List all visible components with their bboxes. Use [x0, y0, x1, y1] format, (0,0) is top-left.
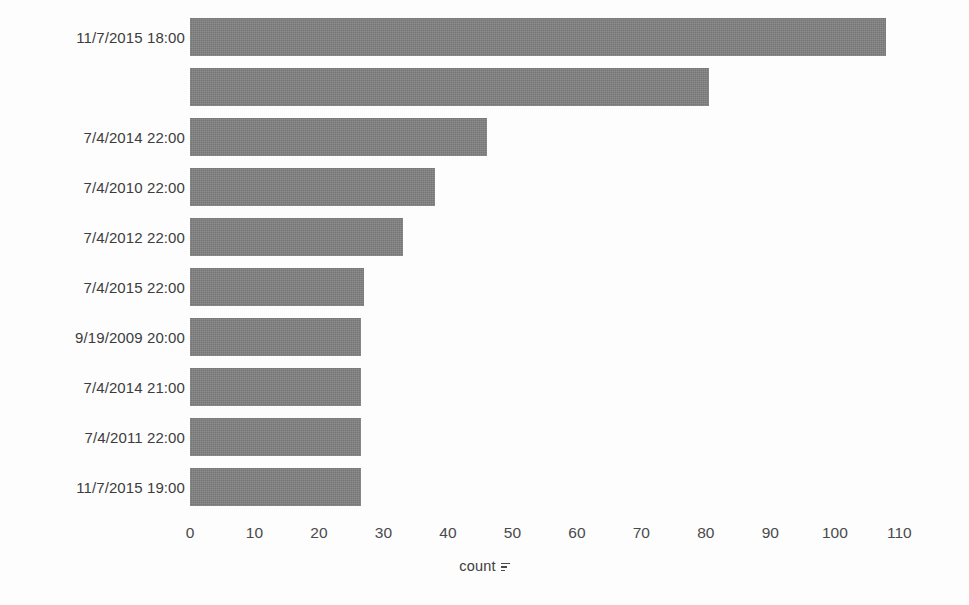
- bar[interactable]: [190, 468, 361, 506]
- bar[interactable]: [190, 68, 709, 106]
- y-axis-label-row: [0, 62, 185, 112]
- y-axis-label-row: 7/4/2011 22:00: [0, 412, 185, 462]
- bar-row: [190, 262, 909, 312]
- x-axis-title[interactable]: count: [0, 558, 969, 574]
- x-axis-tick-label: 70: [633, 524, 650, 542]
- y-axis-label-row: 7/4/2012 22:00: [0, 212, 185, 262]
- y-axis-label-row: 7/4/2014 22:00: [0, 112, 185, 162]
- y-axis-tick-label: 7/4/2011 22:00: [85, 429, 185, 446]
- y-axis-tick-label: 7/4/2014 21:00: [84, 379, 186, 396]
- bar[interactable]: [190, 168, 435, 206]
- x-axis-tick-label: 90: [762, 524, 779, 542]
- bar-chart: 11/7/2015 18:00 7/4/2014 22:00 7/4/2010 …: [0, 0, 969, 605]
- x-axis-tick-label: 0: [186, 524, 195, 542]
- bar[interactable]: [190, 368, 361, 406]
- y-axis-label-row: 7/4/2015 22:00: [0, 262, 185, 312]
- y-axis-tick-label: 7/4/2010 22:00: [84, 179, 186, 196]
- x-axis-tick-label: 50: [504, 524, 521, 542]
- y-axis-tick-label: 7/4/2014 22:00: [84, 129, 186, 146]
- bar[interactable]: [190, 268, 364, 306]
- sort-descending-icon[interactable]: [501, 563, 510, 572]
- bar-row: [190, 112, 909, 162]
- bar-row: [190, 462, 909, 512]
- x-axis-tick-label: 80: [697, 524, 714, 542]
- bar-row: [190, 162, 909, 212]
- x-axis-tick-label: 60: [568, 524, 585, 542]
- plot-area: [190, 12, 909, 520]
- x-axis-tick-label: 110: [887, 524, 912, 542]
- bar[interactable]: [190, 318, 361, 356]
- x-axis-tick-label: 100: [822, 524, 848, 542]
- x-axis: 0 10 20 30 40 50 60 70 80 90 100 110: [190, 524, 930, 550]
- bar[interactable]: [190, 18, 886, 56]
- y-axis-tick-label: 9/19/2009 20:00: [75, 329, 185, 346]
- x-axis-tick-label: 30: [375, 524, 392, 542]
- y-axis-label-row: 11/7/2015 19:00: [0, 462, 185, 512]
- y-axis-tick-label: 11/7/2015 18:00: [76, 29, 185, 46]
- bar-row: [190, 62, 909, 112]
- y-axis-label-row: 7/4/2014 21:00: [0, 362, 185, 412]
- y-axis-label-row: 7/4/2010 22:00: [0, 162, 185, 212]
- x-axis-tick-label: 40: [439, 524, 456, 542]
- bar-row: [190, 362, 909, 412]
- bar[interactable]: [190, 218, 403, 256]
- bar[interactable]: [190, 118, 487, 156]
- y-axis-label-row: 9/19/2009 20:00: [0, 312, 185, 362]
- bar-row: [190, 312, 909, 362]
- bar-row: [190, 212, 909, 262]
- y-axis-tick-label: 7/4/2012 22:00: [84, 229, 186, 246]
- x-axis-tick-label: 20: [310, 524, 327, 542]
- y-axis-tick-label: 7/4/2015 22:00: [84, 279, 186, 296]
- bar[interactable]: [190, 418, 361, 456]
- y-axis-category-labels: 11/7/2015 18:00 7/4/2014 22:00 7/4/2010 …: [0, 12, 185, 520]
- x-axis-tick-label: 10: [246, 524, 263, 542]
- y-axis-label-row: 11/7/2015 18:00: [0, 12, 185, 62]
- x-axis-title-label: count: [459, 558, 495, 574]
- bar-row: [190, 12, 909, 62]
- bar-row: [190, 412, 909, 462]
- y-axis-tick-label: 11/7/2015 19:00: [76, 479, 185, 496]
